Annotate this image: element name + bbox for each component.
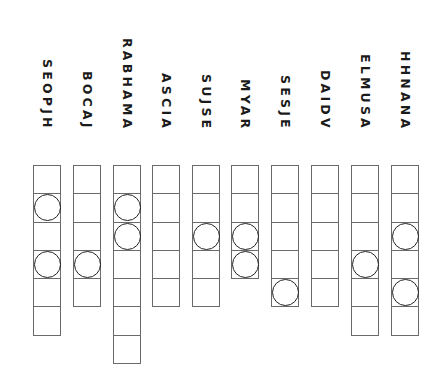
grid-cell[interactable] bbox=[113, 250, 141, 279]
grid-cell[interactable] bbox=[33, 306, 61, 335]
grid-cell[interactable] bbox=[231, 222, 259, 251]
grid-cell[interactable] bbox=[231, 250, 259, 279]
cell-stack bbox=[73, 165, 101, 307]
grid-cell[interactable] bbox=[73, 193, 101, 222]
grid-cell[interactable] bbox=[231, 193, 259, 222]
grid-cell[interactable] bbox=[351, 165, 379, 194]
grid-cell[interactable] bbox=[391, 193, 419, 222]
word-label-wrap: RABHAMA bbox=[113, 0, 141, 131]
cell-stack bbox=[192, 165, 220, 307]
grid-cell[interactable] bbox=[73, 250, 101, 279]
circle-mark-icon bbox=[352, 251, 379, 278]
word-label: MYAR bbox=[238, 79, 252, 131]
grid-cell[interactable] bbox=[351, 222, 379, 251]
cell-stack bbox=[271, 165, 299, 307]
circle-mark-icon bbox=[193, 223, 220, 250]
circle-mark-icon bbox=[232, 251, 259, 278]
circle-mark-icon bbox=[392, 223, 419, 250]
grid-cell[interactable] bbox=[311, 165, 339, 194]
grid-cell[interactable] bbox=[231, 165, 259, 194]
grid-cell[interactable] bbox=[33, 250, 61, 279]
grid-cell[interactable] bbox=[391, 278, 419, 307]
grid-cell[interactable] bbox=[113, 165, 141, 194]
circle-mark-icon bbox=[232, 223, 259, 250]
grid-cell[interactable] bbox=[192, 278, 220, 307]
grid-cell[interactable] bbox=[33, 278, 61, 307]
cell-stack bbox=[311, 165, 339, 307]
word-label: DAIDV bbox=[318, 70, 332, 131]
word-label-wrap: DAIDV bbox=[311, 0, 339, 131]
grid-cell[interactable] bbox=[391, 306, 419, 335]
grid-cell[interactable] bbox=[33, 193, 61, 222]
grid-cell[interactable] bbox=[271, 222, 299, 251]
cell-stack bbox=[391, 165, 419, 336]
grid-cell[interactable] bbox=[33, 165, 61, 194]
cell-stack bbox=[33, 165, 61, 336]
grid-cell[interactable] bbox=[351, 193, 379, 222]
grid-cell[interactable] bbox=[271, 278, 299, 307]
grid-cell[interactable] bbox=[311, 250, 339, 279]
grid-cell[interactable] bbox=[152, 165, 180, 194]
word-label-wrap: SEOPJH bbox=[33, 0, 61, 131]
circle-mark-icon bbox=[114, 223, 141, 250]
grid-cell[interactable] bbox=[192, 193, 220, 222]
grid-cell[interactable] bbox=[152, 222, 180, 251]
circle-mark-icon bbox=[74, 251, 101, 278]
word-label: BOCAJ bbox=[80, 71, 94, 131]
word-label-wrap: ASCIA bbox=[152, 0, 180, 131]
grid-cell[interactable] bbox=[391, 165, 419, 194]
grid-cell[interactable] bbox=[311, 278, 339, 307]
word-label-wrap: MYAR bbox=[231, 0, 259, 131]
word-label: SEOPJH bbox=[40, 59, 54, 131]
word-label: SESJE bbox=[278, 75, 292, 131]
word-label: SUJSE bbox=[199, 74, 213, 131]
grid-cell[interactable] bbox=[391, 250, 419, 279]
cell-stack bbox=[152, 165, 180, 307]
word-label: ELMUSA bbox=[358, 54, 372, 131]
word-label: RABHAMA bbox=[120, 38, 134, 131]
grid-cell[interactable] bbox=[271, 165, 299, 194]
grid-cell[interactable] bbox=[152, 250, 180, 279]
grid-cell[interactable] bbox=[33, 222, 61, 251]
grid-cell[interactable] bbox=[73, 278, 101, 307]
grid-cell[interactable] bbox=[113, 278, 141, 307]
grid-cell[interactable] bbox=[152, 193, 180, 222]
word-label-wrap: SUJSE bbox=[192, 0, 220, 131]
word-label: HHNANA bbox=[398, 51, 412, 131]
grid-cell[interactable] bbox=[113, 193, 141, 222]
word-label-wrap: SESJE bbox=[271, 0, 299, 131]
grid-cell[interactable] bbox=[152, 278, 180, 307]
word-label-wrap: HHNANA bbox=[391, 0, 419, 131]
circle-mark-icon bbox=[34, 194, 61, 221]
cell-stack bbox=[113, 165, 141, 364]
cell-stack bbox=[351, 165, 379, 336]
grid-cell[interactable] bbox=[311, 222, 339, 251]
grid-cell[interactable] bbox=[73, 165, 101, 194]
word-label-wrap: ELMUSA bbox=[351, 0, 379, 131]
grid-cell[interactable] bbox=[271, 193, 299, 222]
grid-cell[interactable] bbox=[311, 193, 339, 222]
cell-stack bbox=[231, 165, 259, 279]
circle-mark-icon bbox=[272, 279, 299, 306]
circle-mark-icon bbox=[34, 251, 61, 278]
grid-cell[interactable] bbox=[391, 222, 419, 251]
grid-cell[interactable] bbox=[351, 306, 379, 335]
word-label: ASCIA bbox=[159, 73, 173, 131]
circle-mark-icon bbox=[114, 194, 141, 221]
grid-cell[interactable] bbox=[73, 222, 101, 251]
grid-cell[interactable] bbox=[113, 222, 141, 251]
grid-cell[interactable] bbox=[192, 250, 220, 279]
grid-cell[interactable] bbox=[192, 222, 220, 251]
grid-cell[interactable] bbox=[113, 335, 141, 364]
circle-mark-icon bbox=[392, 279, 419, 306]
grid-cell[interactable] bbox=[271, 250, 299, 279]
grid-cell[interactable] bbox=[192, 165, 220, 194]
word-label-wrap: BOCAJ bbox=[73, 0, 101, 131]
grid-cell[interactable] bbox=[351, 278, 379, 307]
grid-cell[interactable] bbox=[351, 250, 379, 279]
grid-cell[interactable] bbox=[113, 306, 141, 335]
